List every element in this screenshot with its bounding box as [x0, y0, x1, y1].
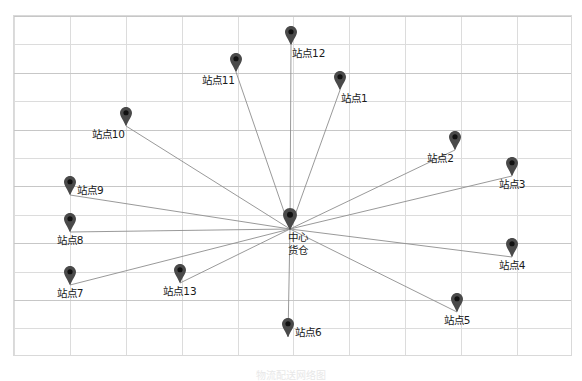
station-label-s3: 站点3 [499, 178, 526, 190]
hub-label-line: 中心 [288, 231, 308, 244]
station-label-s9: 站点9 [77, 184, 104, 196]
station-label-s1: 站点1 [341, 92, 368, 104]
station-label-s11: 站点11 [202, 74, 235, 86]
network-map-figure: 站点1站点2站点3站点4站点5站点6站点7站点8站点9站点10站点11站点12站… [0, 0, 582, 381]
location-pin-icon [449, 131, 461, 150]
station-label-s2: 站点2 [427, 152, 454, 164]
location-pin-icon [230, 53, 242, 72]
station-label-s12: 站点12 [292, 47, 325, 59]
station-label-s8: 站点8 [57, 234, 84, 246]
location-pin-icon [282, 318, 294, 337]
station-label-s6: 站点6 [295, 326, 322, 338]
location-pin-icon [120, 107, 132, 126]
station-label-s10: 站点10 [92, 128, 125, 140]
figure-caption: 物流配送网络图 [0, 370, 582, 381]
location-pin-icon [451, 293, 463, 312]
hub-label-line: 货仓 [288, 244, 308, 257]
location-pin-icon [506, 157, 518, 176]
location-pin-icon [285, 26, 297, 45]
location-pin-icon [64, 213, 76, 232]
station-label-s5: 站点5 [444, 314, 471, 326]
location-pin-icon [334, 71, 346, 90]
location-pin-icon [506, 238, 518, 257]
location-pin-icon [64, 176, 76, 195]
location-pin-icon [174, 264, 186, 283]
location-pin-icon [64, 266, 76, 285]
hub-label: 中心货仓 [288, 231, 308, 256]
station-label-s7: 站点7 [57, 287, 84, 299]
station-label-s13: 站点13 [163, 285, 196, 297]
station-label-s4: 站点4 [499, 259, 526, 271]
hub-pin-icon [283, 208, 297, 229]
